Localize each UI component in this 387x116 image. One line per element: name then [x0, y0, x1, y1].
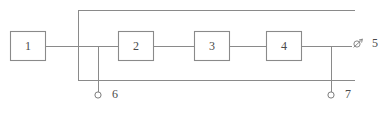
block-diagram: 1 2 3 4 5 6	[0, 0, 387, 116]
terminal-5: 5	[354, 36, 378, 50]
open-circle-icon	[328, 92, 334, 98]
open-circle-icon	[95, 92, 101, 98]
block-3: 3	[195, 32, 230, 61]
block-1: 1	[11, 32, 46, 61]
block-4: 4	[267, 32, 302, 61]
terminal-5-label: 5	[372, 36, 378, 50]
port-arrow-icon	[354, 39, 363, 47]
block-1-label: 1	[25, 39, 31, 53]
block-2: 2	[119, 32, 154, 61]
diagram-canvas: 1 2 3 4 5 6	[0, 0, 387, 116]
block-2-label: 2	[133, 39, 139, 53]
terminal-6-label: 6	[112, 87, 118, 101]
block-3-label: 3	[209, 39, 215, 53]
block-4-label: 4	[281, 39, 287, 53]
terminal-7-label: 7	[345, 87, 351, 101]
